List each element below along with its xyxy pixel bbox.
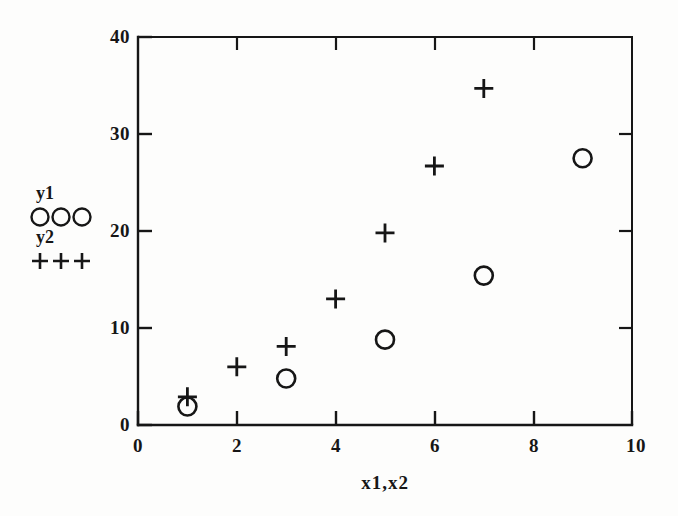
data-point-plus — [326, 289, 345, 308]
legend-label-y1: y1 — [36, 183, 54, 204]
scatter-plot-figure: 0 10 20 30 40 0 2 4 6 8 10 x1,x2 y1 y2 — [0, 0, 678, 516]
data-point-circle — [574, 149, 592, 167]
x-axis-title: x1,x2 — [361, 472, 409, 494]
data-point-circle — [376, 331, 394, 349]
y-tick-label-0: 0 — [92, 414, 130, 436]
x-tick-label-10: 10 — [626, 435, 646, 457]
y-tick-label-30: 30 — [92, 123, 130, 145]
top-edge-ticks — [237, 37, 534, 50]
data-point-plus — [474, 79, 493, 98]
x-tick-label-4: 4 — [331, 435, 341, 457]
data-point-circle — [277, 369, 295, 387]
data-point-plus — [376, 223, 395, 242]
y-tick-label-40: 40 — [92, 26, 130, 48]
series-y2 — [178, 79, 493, 406]
data-point-plus — [425, 157, 444, 176]
right-edge-ticks — [619, 134, 632, 328]
x-tick-label-6: 6 — [430, 435, 440, 457]
x-tick-label-0: 0 — [133, 435, 143, 457]
x-axis-ticks — [138, 411, 632, 425]
legend-marker-circles — [28, 205, 102, 229]
legend-marker-pluses — [28, 249, 102, 273]
y-axis-ticks — [138, 37, 152, 425]
y-tick-label-10: 10 — [92, 317, 130, 339]
data-point-circle — [475, 267, 493, 285]
data-markers-layer — [178, 79, 592, 416]
data-point-plus — [227, 357, 246, 376]
x-tick-label-8: 8 — [529, 435, 539, 457]
data-point-plus — [178, 387, 197, 406]
data-point-plus — [277, 337, 296, 356]
legend-label-y2: y2 — [36, 227, 54, 248]
series-y1 — [178, 149, 591, 415]
x-tick-label-2: 2 — [232, 435, 242, 457]
